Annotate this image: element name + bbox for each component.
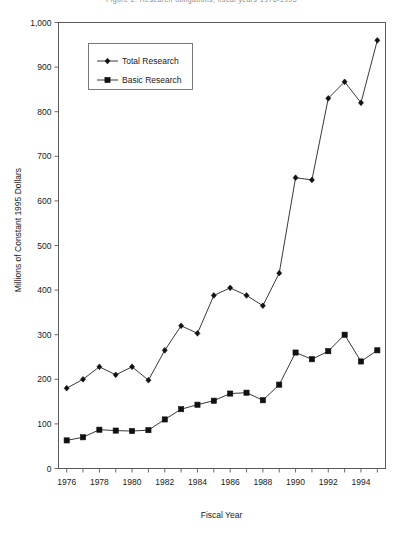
- data-point-diamond-marker: [293, 175, 298, 181]
- y-tick-label: 400: [37, 285, 51, 295]
- data-point-square-marker: [113, 428, 118, 433]
- legend-label: Basic Research: [122, 75, 182, 85]
- data-point-diamond-marker: [211, 293, 216, 299]
- data-point-square-marker: [277, 382, 282, 387]
- data-point-square-marker: [211, 398, 216, 403]
- line-chart-plot: 01002003004005006007008009001,000 197619…: [0, 0, 403, 534]
- y-tick-label: 700: [37, 151, 51, 161]
- series-basic-research: [64, 332, 380, 443]
- data-point-diamond-marker: [113, 372, 118, 378]
- x-tick-label: 1986: [221, 477, 240, 487]
- data-point-square-marker: [244, 390, 249, 395]
- x-tick-label: 1988: [253, 477, 272, 487]
- data-point-square-marker: [228, 391, 233, 396]
- data-point-square-marker: [129, 428, 134, 433]
- data-point-square-marker: [146, 428, 151, 433]
- x-tick-label: 1984: [188, 477, 207, 487]
- y-tick-label: 100: [37, 419, 51, 429]
- data-point-square-marker: [260, 398, 265, 403]
- chart-legend: Total ResearchBasic Research: [89, 44, 193, 90]
- data-point-diamond-marker: [309, 177, 314, 183]
- x-tick-label: 1980: [123, 477, 142, 487]
- data-point-square-marker: [64, 438, 69, 443]
- y-tick-label: 500: [37, 241, 51, 251]
- data-point-square-marker: [375, 348, 380, 353]
- data-point-square-marker: [105, 77, 110, 82]
- data-point-diamond-marker: [80, 376, 85, 382]
- y-tick-label: 300: [37, 330, 51, 340]
- data-point-square-marker: [309, 357, 314, 362]
- series-line: [67, 40, 378, 388]
- chart-figure: Figure 2. Research obligations, fiscal y…: [0, 0, 403, 534]
- data-point-square-marker: [97, 427, 102, 432]
- y-axis-ticks: 01002003004005006007008009001,000: [30, 18, 58, 474]
- data-point-square-marker: [80, 435, 85, 440]
- data-point-diamond-marker: [195, 330, 200, 336]
- data-point-diamond-marker: [97, 364, 102, 370]
- data-series-group: [64, 37, 380, 443]
- y-tick-label: 200: [37, 374, 51, 384]
- legend-label: Total Research: [122, 56, 179, 66]
- data-point-diamond-marker: [228, 285, 233, 291]
- x-tick-label: 1990: [286, 477, 305, 487]
- y-tick-label: 0: [47, 464, 52, 474]
- data-point-diamond-marker: [244, 293, 249, 299]
- data-point-square-marker: [162, 417, 167, 422]
- x-tick-label: 1976: [57, 477, 76, 487]
- y-tick-label: 800: [37, 107, 51, 117]
- x-tick-label: 1994: [352, 477, 371, 487]
- data-point-diamond-marker: [375, 37, 380, 43]
- x-tick-label: 1978: [90, 477, 109, 487]
- data-point-diamond-marker: [260, 303, 265, 309]
- data-point-diamond-marker: [277, 270, 282, 276]
- x-axis-title: Fiscal Year: [58, 510, 385, 520]
- x-tick-label: 1982: [155, 477, 174, 487]
- y-tick-label: 600: [37, 196, 51, 206]
- data-point-square-marker: [326, 349, 331, 354]
- data-point-square-marker: [342, 332, 347, 337]
- data-point-diamond-marker: [64, 385, 69, 391]
- data-point-square-marker: [195, 402, 200, 407]
- data-point-square-marker: [293, 350, 298, 355]
- y-axis-title: Millions of Constant 1995 Dollars: [13, 160, 23, 300]
- data-point-square-marker: [358, 359, 363, 364]
- series-total-research: [64, 37, 380, 391]
- data-point-square-marker: [179, 407, 184, 412]
- y-tick-label: 900: [37, 62, 51, 72]
- x-tick-label: 1992: [319, 477, 338, 487]
- y-tick-label: 1,000: [30, 18, 52, 28]
- x-axis-ticks: 1976197819801982198419861988199019921994: [57, 469, 377, 487]
